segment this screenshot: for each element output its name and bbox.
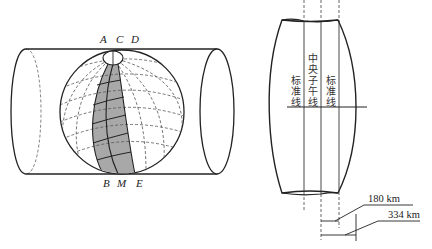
svg-text:午: 午 (308, 85, 318, 97)
label-m: M (116, 177, 127, 189)
svg-text:标: 标 (291, 75, 301, 86)
svg-text:央: 央 (308, 63, 318, 75)
dim-outer-label: 334 km (388, 209, 420, 220)
standard-line-right-label: 标 准 线 (326, 75, 336, 108)
svg-text:准: 准 (326, 86, 336, 97)
svg-text:标: 标 (326, 75, 336, 86)
svg-text:线: 线 (326, 96, 336, 108)
cylinder-diagram: A C D B M E (11, 33, 234, 189)
svg-text:线: 线 (291, 96, 301, 108)
svg-text:子: 子 (308, 75, 318, 86)
standard-line-left-label: 标 准 线 (291, 75, 301, 108)
label-b: B (103, 177, 110, 189)
globe (60, 50, 184, 174)
cylinder-left-end (11, 49, 26, 174)
svg-text:中: 中 (308, 52, 318, 64)
cylinder-right-end (200, 49, 234, 174)
projected-zone-diagram: 标 准 线 中 央 子 午 线 标 准 线 180 km 334 km (269, 0, 420, 241)
figure-canvas: A C D B M E 标 准 (0, 0, 432, 249)
label-e: E (135, 177, 143, 189)
central-meridian-label: 中 央 子 午 线 (308, 52, 318, 108)
dim-inner-label: 180 km (368, 193, 400, 204)
label-c: C (116, 33, 124, 45)
svg-text:准: 准 (291, 86, 301, 97)
svg-text:线: 线 (308, 96, 318, 108)
cylinder-left-end-hidden (26, 49, 41, 174)
label-d: D (130, 33, 139, 45)
label-a: A (99, 33, 107, 45)
